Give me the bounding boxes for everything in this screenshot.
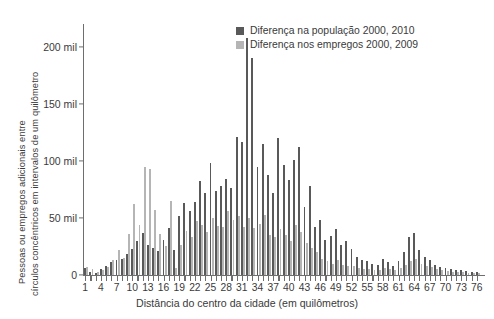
x-axis-tick-mark: [184, 276, 185, 281]
bar-series-container: [83, 24, 483, 275]
bar-empregos: [436, 269, 438, 275]
x-axis-tick-mark: [393, 276, 394, 281]
bar-empregos: [102, 270, 104, 275]
bar-empregos: [227, 211, 229, 275]
bar-empregos: [321, 259, 323, 275]
x-axis-tick-label: 46: [314, 282, 325, 293]
legend-label-empregos: Diferença nos empregos 2000, 2009: [250, 39, 418, 50]
bar-empregos: [274, 237, 276, 275]
x-axis-tick-mark: [226, 276, 227, 281]
x-axis-tick-mark: [472, 276, 473, 281]
bar-empregos: [165, 246, 167, 275]
x-axis-tick-mark: [106, 276, 107, 281]
bar-empregos: [462, 272, 464, 275]
x-axis-tick-labels: 1471013161922252831343740434649525558616…: [0, 282, 494, 296]
x-axis-tick-mark: [305, 276, 306, 281]
x-axis-tick-mark: [430, 276, 431, 281]
x-axis-tick-label: 25: [205, 282, 216, 293]
bar-empregos: [410, 261, 412, 275]
bar-empregos: [468, 273, 470, 275]
bar-empregos: [144, 167, 146, 275]
x-axis-tick-mark: [352, 276, 353, 281]
x-axis-tick-mark: [117, 276, 118, 281]
bar-chart: Pessoas ou empregos adicionais entre cír…: [0, 0, 494, 319]
bar-empregos: [347, 266, 349, 275]
bar-empregos: [316, 252, 318, 275]
x-axis-tick-mark: [101, 276, 102, 281]
x-axis-tick-mark: [247, 276, 248, 281]
bar-empregos: [421, 264, 423, 275]
x-axis-tick-label: 76: [471, 282, 482, 293]
x-axis-tick-mark: [446, 276, 447, 281]
bar-empregos: [290, 241, 292, 275]
x-axis-tick-mark: [242, 276, 243, 281]
bar-empregos: [295, 225, 297, 275]
x-axis-tick-mark: [294, 276, 295, 281]
x-axis-tick-mark: [325, 276, 326, 281]
bar-empregos: [154, 210, 156, 275]
x-axis-tick-mark: [320, 276, 321, 281]
x-axis-tick-label: 1: [82, 282, 88, 293]
x-axis-tick-mark: [231, 276, 232, 281]
bar-empregos: [269, 235, 271, 275]
x-axis-tick-label: 31: [236, 282, 247, 293]
bar-empregos: [133, 204, 135, 275]
x-axis-tick-mark: [409, 276, 410, 281]
bar-empregos: [201, 225, 203, 275]
bar-empregos: [212, 218, 214, 275]
x-axis-tick-label: 61: [393, 282, 404, 293]
x-axis-tick-mark: [273, 276, 274, 281]
x-axis-tick-mark: [96, 276, 97, 281]
legend-label-populacao: Diferença na população 2000, 2010: [250, 25, 415, 36]
bar-empregos: [368, 269, 370, 275]
x-axis-tick-label: 19: [173, 282, 184, 293]
x-axis-tick-mark: [284, 276, 285, 281]
x-axis-tick-mark: [90, 276, 91, 281]
bar-empregos: [452, 272, 454, 275]
x-axis-tick-mark: [148, 276, 149, 281]
bar-empregos: [170, 201, 172, 275]
bar-empregos: [363, 269, 365, 275]
x-axis-tick-label: 4: [98, 282, 104, 293]
x-axis-tick-mark: [132, 276, 133, 281]
x-axis-tick-mark: [153, 276, 154, 281]
x-axis-tick-mark: [383, 276, 384, 281]
x-axis-tick-label: 43: [299, 282, 310, 293]
bar-empregos: [149, 169, 151, 275]
x-axis-tick-mark: [299, 276, 300, 281]
x-axis-tick-mark: [378, 276, 379, 281]
bar-empregos: [306, 243, 308, 275]
legend-item-populacao: Diferença na população 2000, 2010: [236, 25, 418, 36]
x-axis-tick-mark: [310, 276, 311, 281]
y-axis-title-line-1: Pessoas ou empregos adicionais entre: [17, 120, 27, 284]
x-axis-tick-mark: [451, 276, 452, 281]
x-axis-tick-mark: [143, 276, 144, 281]
bar-empregos: [389, 269, 391, 275]
bar-empregos: [337, 260, 339, 275]
x-axis-tick-mark: [419, 276, 420, 281]
chart-legend: Diferença na população 2000, 2010 Difere…: [236, 25, 418, 53]
bar-empregos: [285, 235, 287, 275]
bar-empregos: [107, 267, 109, 275]
x-axis-tick-mark: [331, 276, 332, 281]
x-axis-title: Distância do centro da cidade (em quilôm…: [0, 297, 494, 309]
x-axis-tick-label: 16: [158, 282, 169, 293]
bar-empregos: [180, 245, 182, 275]
bar-empregos: [327, 261, 329, 275]
bar-empregos: [196, 221, 198, 275]
bar-empregos: [400, 268, 402, 275]
bar-empregos: [139, 225, 141, 275]
x-axis-tick-mark: [195, 276, 196, 281]
x-axis-tick-mark: [179, 276, 180, 281]
bar-empregos: [97, 272, 99, 275]
bar-empregos: [431, 267, 433, 275]
bar-empregos: [86, 267, 88, 275]
bar-empregos: [332, 264, 334, 275]
y-axis-title-line-2: círculos concêntricos em intervalos de u…: [30, 72, 40, 296]
bar-empregos: [175, 268, 177, 275]
bar-empregos: [405, 265, 407, 275]
bar-empregos: [441, 270, 443, 275]
x-axis-tick-mark: [190, 276, 191, 281]
x-axis-tick-mark: [278, 276, 279, 281]
bar-empregos: [415, 259, 417, 275]
